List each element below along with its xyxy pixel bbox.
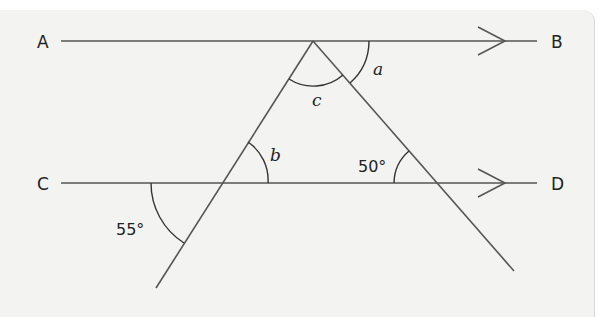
angle-label-a: a [373, 59, 383, 79]
angle-a-arc [350, 41, 369, 83]
angle-label-55: 55° [116, 220, 144, 239]
line-cd [61, 169, 537, 197]
angle-c-arc [289, 75, 343, 86]
angle-b-arc [248, 142, 268, 183]
angle-55-arc [151, 183, 184, 243]
angle-label-b: b [270, 145, 281, 165]
point-label-c: C [37, 174, 49, 194]
point-label-b: B [551, 32, 563, 52]
geometry-diagram: A B C D a c b 50° 55° [0, 0, 608, 317]
line-ab [61, 27, 537, 55]
point-label-a: A [37, 32, 49, 52]
angle-label-c: c [312, 90, 322, 110]
angle-50-arc [394, 151, 409, 183]
angle-label-50: 50° [358, 157, 386, 176]
point-label-d: D [551, 174, 564, 194]
transversal-left [156, 41, 313, 288]
